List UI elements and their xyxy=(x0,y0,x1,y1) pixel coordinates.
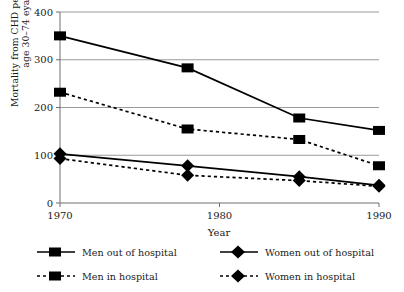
legend-swatch-women-in-hospital xyxy=(218,269,260,283)
data-point-marker xyxy=(181,169,194,182)
data-point-marker xyxy=(182,124,194,133)
y-tick-label: 200 xyxy=(34,102,53,113)
grid-lines xyxy=(60,12,379,155)
data-point-marker xyxy=(293,135,305,144)
x-tick-label: 1980 xyxy=(207,210,232,221)
data-point-marker xyxy=(373,126,385,135)
y-tick-label: 300 xyxy=(34,54,53,65)
chart-figure: Mortality from CHD per 100,000age 30–74 … xyxy=(0,0,404,292)
legend-label-men-in-hospital: Men in hospital xyxy=(82,271,158,282)
legend-item-men-in-hospital: Men in hospital xyxy=(35,269,158,283)
data-series-group xyxy=(54,31,386,192)
legend-swatch-men-out-of-hospital xyxy=(35,245,77,259)
y-tick-label: 0 xyxy=(47,198,53,209)
legend-label-men-out-of-hospital: Men out of hospital xyxy=(82,247,177,258)
data-point-marker xyxy=(54,88,66,97)
legend-swatch-men-in-hospital xyxy=(35,269,77,283)
x-tick-label: 1970 xyxy=(47,210,72,221)
y-tick-label: 400 xyxy=(34,7,53,18)
data-point-marker xyxy=(293,114,305,123)
legend-label-women-in-hospital: Women in hospital xyxy=(265,271,355,282)
y-tick-label: 100 xyxy=(34,150,53,161)
legend-item-women-in-hospital: Women in hospital xyxy=(218,269,355,283)
data-point-marker xyxy=(373,180,386,193)
legend-label-women-out-of-hospital: Women out of hospital xyxy=(265,247,374,258)
data-point-marker xyxy=(54,31,66,40)
legend-item-women-out-of-hospital: Women out of hospital xyxy=(218,245,374,259)
legend-swatch-women-out-of-hospital xyxy=(218,245,260,259)
x-tick-label: 1990 xyxy=(366,210,391,221)
series-women-out-of-hospital xyxy=(54,147,386,192)
x-axis-title: Year xyxy=(207,227,231,238)
series-men-out-of-hospital xyxy=(54,31,385,135)
chart-legend: Men out of hospital Men in hospital Wome… xyxy=(0,243,404,292)
data-point-marker xyxy=(373,161,385,170)
data-point-marker xyxy=(182,63,194,72)
x-axis-ticks: 197019801990 xyxy=(47,203,391,221)
legend-item-men-out-of-hospital: Men out of hospital xyxy=(35,245,177,259)
